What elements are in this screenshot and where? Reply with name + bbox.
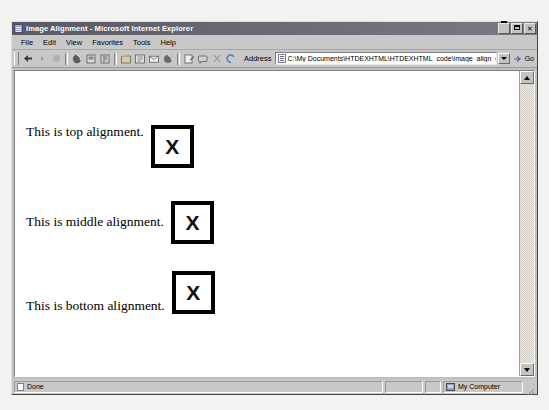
go-button[interactable]: Go <box>512 52 537 66</box>
menu-item-file[interactable]: File <box>16 38 38 47</box>
alignment-text-middle: This is middle alignment. <box>26 215 164 230</box>
window-controls: ✕ <box>498 23 536 34</box>
cut-button[interactable] <box>210 52 224 66</box>
placeholder-image-top[interactable]: X <box>151 125 194 168</box>
search-button[interactable] <box>98 52 112 66</box>
favorites-button[interactable] <box>119 52 133 66</box>
edit-button[interactable] <box>182 52 196 66</box>
messenger-button[interactable] <box>224 52 238 66</box>
menu-item-edit[interactable]: Edit <box>38 38 61 47</box>
alignment-row-top: This is top alignment. X <box>26 125 194 168</box>
document-icon <box>17 383 24 391</box>
placeholder-image-bottom[interactable]: X <box>172 271 215 314</box>
address-bar: Address C:\My Documents\HTDEXHTML\HTDEXH… <box>238 50 537 67</box>
arrow-down-icon <box>524 368 530 372</box>
refresh-button[interactable] <box>70 52 84 66</box>
history-button[interactable] <box>133 52 147 66</box>
placeholder-image-label: X <box>186 282 200 303</box>
chevron-down-icon <box>501 57 507 60</box>
status-panel-blank-1 <box>385 381 423 393</box>
status-message: Done <box>14 381 383 393</box>
browser-window: Image Alignment - Microsoft Internet Exp… <box>11 21 538 395</box>
page-icon <box>278 54 286 63</box>
scrollbar-track[interactable] <box>520 84 534 363</box>
status-message-text: Done <box>27 383 44 390</box>
discuss-button[interactable] <box>196 52 210 66</box>
placeholder-image-label: X <box>165 136 179 157</box>
menu-bar: File Edit View Favorites Tools Help <box>12 35 537 50</box>
content-area: This is top alignment. X This is middle … <box>12 68 537 379</box>
status-bar: Done My Computer <box>12 379 537 394</box>
alignment-row-bottom: This is bottom alignment. X <box>26 271 215 314</box>
ie-document-icon <box>14 24 23 33</box>
mail-button[interactable] <box>147 52 161 66</box>
document-frame: This is top alignment. X This is middle … <box>14 70 535 377</box>
my-computer-icon <box>446 383 455 391</box>
scroll-down-button[interactable] <box>520 363 534 376</box>
menu-item-help[interactable]: Help <box>156 38 181 47</box>
security-zone-text: My Computer <box>458 383 500 390</box>
toolbar-separator <box>177 53 180 65</box>
menu-item-tools[interactable]: Tools <box>128 38 156 47</box>
alignment-row-middle: This is middle alignment. X <box>26 201 214 244</box>
address-value: C:\My Documents\HTDEXHTML\HTDEXHTML_code… <box>288 55 496 62</box>
toolbar-grip[interactable] <box>14 52 19 65</box>
title-bar[interactable]: Image Alignment - Microsoft Internet Exp… <box>12 22 537 35</box>
go-arrow-icon <box>513 54 524 64</box>
toolbar-separator <box>65 53 68 65</box>
web-page[interactable]: This is top alignment. X This is middle … <box>15 71 519 376</box>
alignment-text-bottom: This is bottom alignment. <box>26 299 165 314</box>
security-zone: My Computer <box>443 381 523 393</box>
status-panel-blank-2 <box>425 381 441 393</box>
scroll-up-button[interactable] <box>520 71 534 84</box>
menu-item-view[interactable]: View <box>61 38 87 47</box>
resize-grip[interactable] <box>525 382 535 392</box>
close-icon: ✕ <box>525 24 535 33</box>
print-button[interactable] <box>161 52 175 66</box>
vertical-scrollbar[interactable] <box>519 71 534 376</box>
stop-button[interactable] <box>49 52 63 66</box>
go-label: Go <box>525 55 534 62</box>
toolbar: Address C:\My Documents\HTDEXHTML\HTDEXH… <box>12 50 537 68</box>
back-button[interactable] <box>21 52 35 66</box>
alignment-text-top: This is top alignment. <box>26 125 144 140</box>
forward-button[interactable] <box>35 52 49 66</box>
address-input[interactable]: C:\My Documents\HTDEXHTML\HTDEXHTML_code… <box>275 52 497 65</box>
address-dropdown-button[interactable] <box>498 53 510 64</box>
placeholder-image-label: X <box>185 212 199 233</box>
minimize-button[interactable] <box>498 23 510 34</box>
menu-item-favorites[interactable]: Favorites <box>87 38 128 47</box>
arrow-up-icon <box>524 76 530 80</box>
toolbar-separator <box>114 53 117 65</box>
close-button[interactable]: ✕ <box>524 23 536 34</box>
placeholder-image-middle[interactable]: X <box>171 201 214 244</box>
toolbar-buttons <box>12 50 238 67</box>
address-label: Address <box>244 54 272 63</box>
window-title: Image Alignment - Microsoft Internet Exp… <box>26 24 498 33</box>
maximize-button[interactable] <box>511 23 523 34</box>
home-button[interactable] <box>84 52 98 66</box>
